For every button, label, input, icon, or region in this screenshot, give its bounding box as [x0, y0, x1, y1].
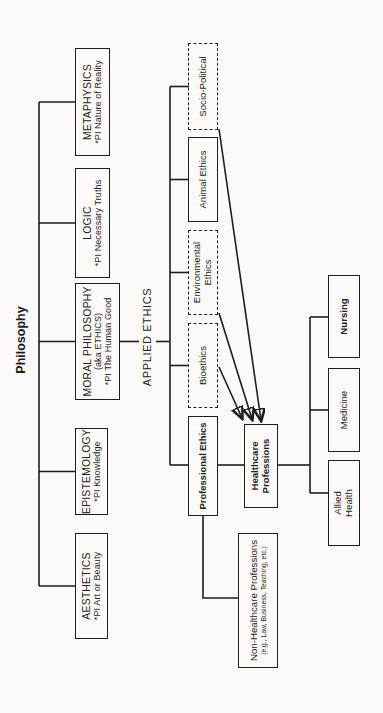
philosophy-tree-diagram: Philosophy AESTHETICS *PI Art or Beauty … [0, 0, 383, 713]
root-title: Philosophy [14, 305, 28, 375]
metaphysics-title: METAPHYSICS [82, 64, 94, 140]
epistemology-title: EPISTEMOLOGY [81, 429, 93, 514]
metaphysics-subtitle: *PI Nature of Reality [93, 60, 103, 144]
box-epistemology: EPISTEMOLOGY *PI Knowledge [75, 428, 108, 515]
box-aesthetics: AESTHETICS *PI Art or Beauty [75, 533, 108, 639]
arrow-socio-political-to-healthcare [219, 129, 261, 420]
box-moral-philosophy: MORAL PHILOSOPHY (aka ETHICS) *PI The Hu… [75, 283, 120, 400]
moral-philosophy-title: MORAL PHILOSOPHY [82, 286, 94, 396]
non-healthcare-line1: Non-Healthcare Professions [249, 540, 260, 661]
box-nursing: Nursing [328, 275, 360, 358]
professional-to-nonhealthcare-elbow [203, 516, 239, 598]
box-allied-health: Allied Health [328, 460, 360, 546]
aesthetics-subtitle: *PI Art or Beauty [92, 552, 102, 620]
animal-ethics-label: Animal Ethics [198, 150, 209, 208]
box-metaphysics: METAPHYSICS *PI Nature of Reality [75, 48, 110, 156]
box-logic: LOGIC *PI Necessary Truths [75, 168, 110, 278]
box-non-healthcare-professions: Non-Healthcare Professions (e.g., Law, B… [238, 533, 278, 668]
box-healthcare-professions: Healthcare Professions [244, 424, 278, 508]
box-medicine: Medicine [328, 368, 360, 452]
non-healthcare-line2: (e.g., Law, Business, Teaching, etc.) [260, 546, 268, 655]
box-socio-political: Socio-Political [188, 43, 218, 130]
box-professional-ethics: Professional Ethics [188, 416, 218, 516]
socio-political-label: Socio-Political [198, 56, 209, 116]
logic-title: LOGIC [82, 206, 94, 239]
moral-philosophy-aka: (aka ETHICS) [93, 313, 103, 370]
epistemology-subtitle: *PI Knowledge [92, 441, 102, 501]
bioethics-label: Bioethics [198, 346, 209, 385]
environmental-ethics-label: Environmental Ethics [192, 237, 213, 309]
box-environmental-ethics: Environmental Ethics [188, 230, 218, 315]
applied-ethics-label: APPLIED ETHICS [141, 282, 153, 392]
professional-ethics-label: Professional Ethics [198, 423, 209, 510]
nursing-label: Nursing [339, 298, 350, 334]
logic-subtitle: *PI Necessary Truths [93, 180, 103, 267]
moral-philosophy-subtitle: *PI The Human Good [103, 298, 113, 386]
healthcare-professions-line2: Professions [261, 439, 272, 494]
allied-health-line2: Health [344, 489, 355, 517]
medicine-label: Medicine [339, 391, 350, 429]
box-animal-ethics: Animal Ethics [188, 137, 218, 222]
box-bioethics: Bioethics [188, 323, 218, 408]
aesthetics-title: AESTHETICS [81, 552, 93, 619]
